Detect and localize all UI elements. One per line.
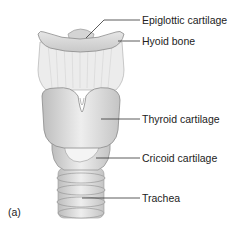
panel-label: (a) — [8, 206, 21, 218]
label-thyroid-cartilage: Thyroid cartilage — [142, 113, 220, 125]
thyroid-cartilage — [42, 88, 120, 148]
label-epiglottic-cartilage: Epiglottic cartilage — [142, 14, 227, 26]
trachea — [57, 168, 105, 218]
label-trachea: Trachea — [142, 192, 180, 204]
hyoid-bone — [38, 29, 124, 52]
label-hyoid-bone: Hyoid bone — [142, 35, 195, 47]
label-cricoid-cartilage: Cricoid cartilage — [142, 152, 217, 164]
